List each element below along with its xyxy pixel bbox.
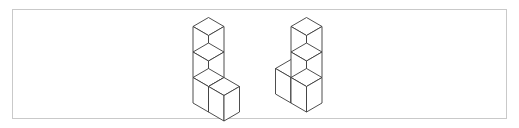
left-cube-assembly: [193, 18, 240, 122]
cube: [209, 78, 240, 122]
cube-figures-canvas: [0, 0, 519, 128]
cube: [291, 69, 322, 113]
right-cube-assembly: [276, 18, 323, 113]
screenshot-root: [0, 0, 519, 128]
